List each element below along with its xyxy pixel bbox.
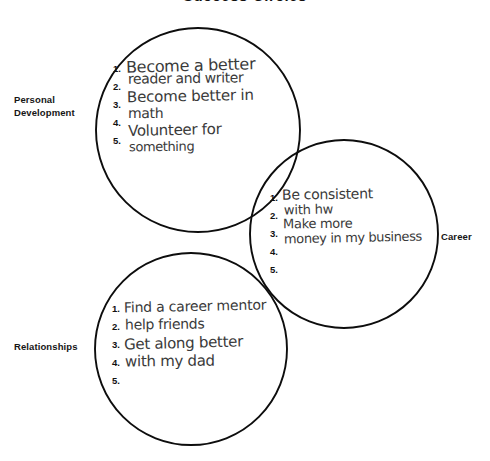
list-item[interactable]: 4. xyxy=(112,354,282,372)
label-career-line1: Career xyxy=(441,231,489,244)
list-number: 5. xyxy=(112,372,120,390)
list-number: 2. xyxy=(113,78,121,96)
list-personal-development: 1. 2. 3. 4. 5. xyxy=(113,60,288,150)
list-number: 4. xyxy=(270,243,278,261)
list-number: 3. xyxy=(270,225,278,243)
label-personal-development: Personal Development xyxy=(14,94,94,119)
list-item[interactable]: 2. xyxy=(270,207,430,225)
label-relationships: Relationships xyxy=(14,341,104,354)
list-item[interactable]: 1. xyxy=(113,60,288,78)
label-relationships-line1: Relationships xyxy=(14,341,104,354)
list-item[interactable]: 3. xyxy=(112,336,282,354)
label-career: Career xyxy=(441,231,489,244)
list-number: 5. xyxy=(270,261,278,279)
list-item[interactable]: 5. xyxy=(270,261,430,279)
list-number: 5. xyxy=(113,132,121,150)
list-number: 3. xyxy=(113,96,121,114)
list-number: 4. xyxy=(112,354,120,372)
list-item[interactable]: 5. xyxy=(113,132,288,150)
list-item[interactable]: 5. xyxy=(112,372,282,390)
list-item[interactable]: 1. xyxy=(270,189,430,207)
list-item[interactable]: 3. xyxy=(270,225,430,243)
list-number: 1. xyxy=(112,300,120,318)
list-item[interactable]: 3. xyxy=(113,96,288,114)
list-number: 2. xyxy=(112,318,120,336)
label-personal-development-line2: Development xyxy=(14,107,94,120)
list-number: 3. xyxy=(112,336,120,354)
list-item[interactable]: 2. xyxy=(113,78,288,96)
list-item[interactable]: 4. xyxy=(113,114,288,132)
list-number: 1. xyxy=(113,60,121,78)
list-item[interactable]: 1. xyxy=(112,300,282,318)
list-career: 1. 2. 3. 4. 5. xyxy=(270,189,430,279)
list-number: 2. xyxy=(270,207,278,225)
list-number: 1. xyxy=(270,189,278,207)
list-number: 4. xyxy=(113,114,121,132)
label-personal-development-line1: Personal xyxy=(14,94,94,107)
list-item[interactable]: 2. xyxy=(112,318,282,336)
list-relationships: 1. 2. 3. 4. 5. xyxy=(112,300,282,390)
list-item[interactable]: 4. xyxy=(270,243,430,261)
success-circles-worksheet: Success Circles Personal Development Car… xyxy=(0,0,490,461)
